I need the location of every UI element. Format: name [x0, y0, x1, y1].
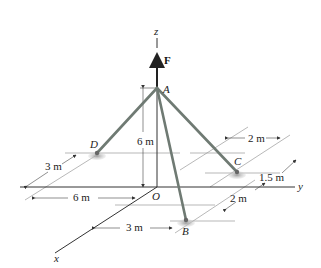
dim-D-y-label: 6 m	[73, 191, 90, 203]
x-axis-line	[55, 187, 157, 253]
dim-B-y-label: 2 m	[230, 192, 247, 204]
dim-C-x-label: 1.5 m	[259, 171, 285, 183]
dim-height-label: 6 m	[137, 135, 154, 147]
dim-C-y-label: 2 m	[248, 132, 265, 144]
tripod-diagram: z y x O F A B C D 6 m 3 m 6 m 3 m 2 m 2 …	[0, 0, 321, 268]
point-D-label: D	[89, 138, 98, 150]
z-axis-label: z	[153, 25, 159, 37]
point-A-label: A	[162, 83, 170, 95]
y-axis-label: y	[297, 180, 303, 192]
point-B-label: B	[182, 225, 189, 237]
diagram-figure: z y x O F A B C D 6 m 3 m 6 m 3 m 2 m 2 …	[0, 0, 321, 268]
dimension-lines	[27, 138, 296, 228]
supports	[88, 151, 246, 227]
members	[97, 88, 237, 220]
x-axis-label: x	[53, 252, 59, 264]
origin-label: O	[152, 190, 160, 202]
dim-B-x-label: 3 m	[126, 221, 143, 233]
member-AB	[157, 88, 186, 220]
dim-D-x-label: 3 m	[45, 160, 62, 172]
force-label: F	[164, 54, 171, 66]
point-C-label: C	[234, 155, 242, 167]
